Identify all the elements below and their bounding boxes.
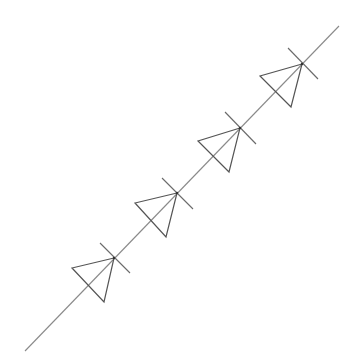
junction-dot <box>113 257 115 259</box>
junction-dot <box>176 192 178 194</box>
diode-chain-diagram <box>0 0 353 359</box>
junction-dot <box>239 127 241 129</box>
wire <box>25 26 339 351</box>
junction-dot <box>301 63 303 65</box>
